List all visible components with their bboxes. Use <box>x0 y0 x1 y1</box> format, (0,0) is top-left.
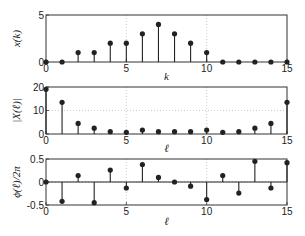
stem-marker <box>284 100 289 105</box>
x-axis-label: ℓ <box>164 142 169 154</box>
x-axis-label: k <box>164 70 170 82</box>
stem-marker <box>172 31 177 36</box>
x-tick-label: 0 <box>43 206 49 217</box>
stem-marker <box>59 100 64 105</box>
stem-marker <box>188 129 193 134</box>
stem-marker <box>220 173 225 178</box>
stem-marker <box>108 41 113 46</box>
stem-marker <box>156 22 161 27</box>
panel-magnitude-Xl: 05101501020ℓ|X(ℓ)| <box>10 82 293 155</box>
x-tick-label: 0 <box>43 135 49 146</box>
stem-marker <box>252 159 257 164</box>
stem-marker <box>220 59 225 64</box>
stem-marker <box>204 197 209 202</box>
y-axis-label: ϕ(ℓ)/2π <box>10 166 23 198</box>
stem-marker <box>236 129 241 134</box>
stem-marker <box>140 31 145 36</box>
y-tick-label: 5 <box>38 10 44 21</box>
x-tick-label: 10 <box>201 135 213 146</box>
stem-marker <box>140 127 145 132</box>
y-tick-label: 0 <box>38 129 44 140</box>
x-tick-label: 0 <box>43 63 49 74</box>
stem-marker <box>156 129 161 134</box>
y-tick-label: 20 <box>33 82 45 93</box>
x-tick-label: 15 <box>281 63 293 74</box>
stem-marker <box>252 59 257 64</box>
y-tick-label: 0.5 <box>30 154 44 165</box>
stem-marker <box>268 59 273 64</box>
stem-marker <box>284 160 289 165</box>
stem-marker <box>188 184 193 189</box>
x-tick-label: 5 <box>124 206 130 217</box>
stem-marker <box>252 126 257 131</box>
stem-marker <box>108 129 113 134</box>
stem-marker <box>76 50 81 55</box>
x-tick-label: 15 <box>281 206 293 217</box>
panel-signal-xk: 05101505kx(k) <box>10 10 293 83</box>
y-tick-label: -0.5 <box>27 200 45 211</box>
stem-plot-figure: 05101505kx(k) 05101501020ℓ|X(ℓ)| 051015-… <box>0 0 305 236</box>
stem-marker <box>268 185 273 190</box>
stem-marker <box>268 121 273 126</box>
stem-marker <box>59 199 64 204</box>
stem-marker <box>172 129 177 134</box>
stem-marker <box>172 179 177 184</box>
stem-marker <box>92 200 97 205</box>
stem-marker <box>43 59 48 64</box>
x-axis-label: ℓ <box>164 215 169 227</box>
stem-marker <box>124 185 129 190</box>
stem-marker <box>124 41 129 46</box>
stem-marker <box>236 59 241 64</box>
stem-marker <box>188 41 193 46</box>
stem-marker <box>220 130 225 135</box>
y-axis-label: |X(ℓ)| <box>10 98 23 123</box>
stem-marker <box>204 127 209 132</box>
stem-marker <box>156 175 161 180</box>
stem-marker <box>92 126 97 131</box>
stem-marker <box>284 59 289 64</box>
x-tick-label: 10 <box>201 206 213 217</box>
stem-marker <box>43 179 48 184</box>
stem-marker <box>236 190 241 195</box>
y-axis-label: x(k) <box>10 30 23 48</box>
x-tick-label: 5 <box>124 63 130 74</box>
panel-phase: 051015-0.500.5ℓϕ(ℓ)/2π <box>10 154 293 228</box>
stem-marker <box>76 121 81 126</box>
x-tick-label: 10 <box>201 63 213 74</box>
stem-marker <box>43 87 48 92</box>
y-tick-label: 10 <box>33 105 45 116</box>
stem-marker <box>108 167 113 172</box>
stem-marker <box>76 173 81 178</box>
stem-marker <box>124 130 129 135</box>
stem-marker <box>140 162 145 167</box>
x-tick-label: 5 <box>124 135 130 146</box>
stem-marker <box>92 50 97 55</box>
stem-marker <box>204 50 209 55</box>
stem-marker <box>59 59 64 64</box>
axes-box <box>46 15 287 62</box>
x-tick-label: 15 <box>281 135 293 146</box>
